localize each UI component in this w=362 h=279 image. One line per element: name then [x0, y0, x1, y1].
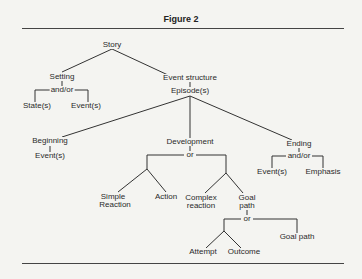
node-emphasis: Emphasis	[304, 168, 341, 176]
node-episodes: Episode(s)	[170, 87, 210, 95]
node-ending: Ending	[286, 140, 313, 148]
node-setting: Setting	[49, 73, 76, 81]
goal-path-connector: or	[242, 215, 251, 223]
ending-connector: and/or	[287, 152, 312, 160]
node-development: Development	[165, 138, 214, 146]
node-attempt: Attempt	[188, 248, 218, 256]
node-outcome: Outcome	[227, 248, 261, 256]
node-states: State(s)	[22, 102, 52, 110]
node-reaction: Reaction	[98, 201, 132, 209]
node-beginning: Beginning	[31, 137, 69, 145]
node-action: Action	[154, 193, 178, 201]
node-goal-path: path	[238, 202, 256, 210]
node-setting-events: Event(s)	[70, 102, 102, 110]
node-event-structure: Event structure	[162, 74, 218, 82]
node-beginning-events: Event(s)	[34, 152, 66, 160]
node-ending-events: Event(s)	[256, 168, 288, 176]
node-story: Story	[102, 41, 123, 49]
development-connector: or	[185, 151, 194, 159]
node-complex-reaction: reaction	[186, 202, 216, 210]
setting-connector: and/or	[50, 86, 75, 94]
node-goal-path-recursive: Goal path	[279, 233, 316, 241]
